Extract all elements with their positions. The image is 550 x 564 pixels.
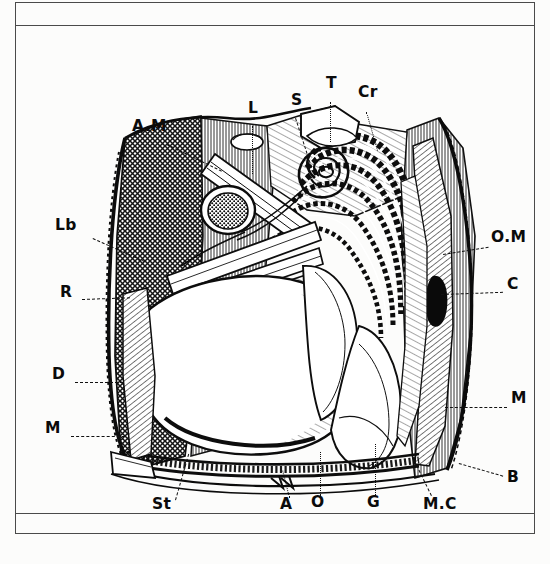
label-c: C bbox=[507, 277, 519, 293]
dorsal-knob bbox=[231, 134, 263, 150]
frame-rule-bottom-outer bbox=[15, 533, 535, 534]
label-mc: M.C bbox=[423, 497, 457, 513]
label-g: G bbox=[367, 495, 380, 511]
frame-rule-bottom-inner bbox=[15, 513, 535, 514]
leader-m-right bbox=[445, 407, 507, 408]
label-a: A bbox=[280, 497, 292, 513]
label-l: L bbox=[248, 101, 258, 117]
leader-m-left bbox=[71, 436, 125, 437]
label-d: D bbox=[52, 367, 65, 383]
leader-d bbox=[75, 382, 123, 383]
leader-o bbox=[320, 452, 321, 496]
scanned-page: A.M L S T Cr Lb R D M O.M C M B St A O G… bbox=[0, 0, 550, 564]
label-b: B bbox=[507, 470, 519, 486]
frame-rule-top-outer bbox=[15, 2, 535, 3]
label-t: T bbox=[326, 76, 337, 92]
specimen-block bbox=[107, 106, 476, 494]
label-lb: Lb bbox=[55, 218, 77, 234]
leader-l bbox=[252, 126, 253, 174]
label-st: St bbox=[152, 497, 171, 513]
leader-g bbox=[375, 444, 376, 496]
label-om: O.M bbox=[491, 230, 526, 246]
label-m-right: M bbox=[511, 391, 527, 407]
right-mantle-pigment-spot bbox=[426, 276, 448, 327]
anatomical-figure: A.M L S T Cr Lb R D M O.M C M B St A O G… bbox=[15, 26, 535, 513]
engraving-artwork bbox=[15, 26, 535, 513]
label-am: A.M bbox=[132, 119, 167, 135]
label-m-left: M bbox=[45, 421, 61, 437]
muscle-scar-ring bbox=[201, 186, 255, 234]
label-cr: Cr bbox=[358, 85, 378, 101]
leader-t bbox=[330, 102, 331, 142]
label-s: S bbox=[291, 93, 303, 109]
label-o: O bbox=[311, 495, 325, 511]
label-r: R bbox=[60, 285, 72, 301]
